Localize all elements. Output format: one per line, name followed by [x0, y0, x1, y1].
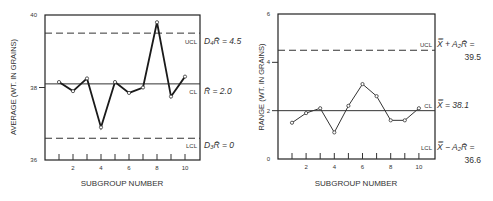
y-tick-label: 38: [30, 85, 37, 91]
x-axis-label: SUBGROUP NUMBER: [81, 179, 164, 188]
lcl-annotation: X̿ − A₂R̄ =: [436, 141, 474, 152]
data-point: [99, 126, 102, 129]
x-tick-label: 4: [99, 165, 103, 171]
range-chart: 0246 246810 UCL CL LCL X̿ + A₂R̄ = 39.5 …: [257, 11, 481, 188]
x-tick-label: 2: [304, 164, 308, 170]
control-charts: 363840 246810 UCL CL LCL D₄R̄ = 4.5 R̄ =…: [0, 0, 493, 201]
y-tick-label: 0: [267, 156, 271, 162]
lcl-tag: LCL: [186, 143, 198, 149]
data-point: [71, 90, 74, 93]
ucl-tag: UCL: [185, 39, 198, 45]
lcl-value: 36.6: [464, 155, 481, 165]
lcl-tag: LCL: [421, 145, 433, 151]
data-point: [403, 119, 406, 122]
x-tick-label: 4: [333, 164, 337, 170]
x-axis-label: SUBGROUP NUMBER: [315, 179, 398, 188]
cl-tag: CL: [424, 103, 432, 109]
cl-annotation: X̿ = 38.1: [436, 99, 469, 110]
x-tick-label: 6: [361, 164, 365, 170]
x-tick-label: 6: [127, 165, 131, 171]
y-axis-ticks: 363840: [30, 12, 45, 163]
cl-tag: CL: [189, 89, 197, 95]
ucl-annotation: X̿ + A₂R̄ =: [436, 38, 474, 49]
x-tick-label: 10: [182, 165, 189, 171]
ucl-annotation: D₄R̄ = 4.5: [204, 36, 241, 46]
data-point: [333, 131, 336, 134]
x-tick-label: 8: [155, 165, 159, 171]
y-axis-label: AVERAGE (WT. IN GRAINS): [9, 38, 18, 135]
y-tick-label: 40: [30, 12, 37, 18]
data-points: [290, 82, 420, 134]
data-point: [319, 107, 322, 110]
y-axis-ticks: 0246: [267, 11, 278, 162]
data-point: [57, 80, 60, 83]
x-tick-label: 2: [71, 165, 75, 171]
data-point: [290, 121, 293, 124]
data-point: [389, 119, 392, 122]
ucl-value: 39.5: [464, 52, 481, 62]
x-axis-ticks: 246810: [59, 154, 189, 171]
y-tick-label: 36: [30, 157, 37, 163]
data-point: [361, 82, 364, 85]
cl-annotation: R̄ = 2.0: [204, 86, 232, 96]
y-tick-label: 2: [267, 108, 271, 114]
data-point: [417, 107, 420, 110]
data-point: [347, 104, 350, 107]
data-point: [375, 95, 378, 98]
x-tick-label: 8: [389, 164, 393, 170]
data-point: [113, 80, 116, 83]
y-axis-label: RANGE (WT. IN GRAINS): [257, 43, 266, 131]
plot-frame: [278, 14, 435, 159]
data-series-line: [292, 84, 419, 132]
data-point: [183, 75, 186, 78]
y-tick-label: 6: [267, 11, 271, 17]
ucl-tag: UCL: [420, 42, 433, 48]
data-point: [305, 111, 308, 114]
data-series-line: [59, 22, 185, 127]
data-point: [127, 91, 130, 94]
data-point: [169, 95, 172, 98]
average-chart: 363840 246810 UCL CL LCL D₄R̄ = 4.5 R̄ =…: [9, 12, 241, 188]
x-axis-ticks: 246810: [292, 153, 423, 170]
x-tick-label: 10: [416, 164, 423, 170]
data-point: [85, 77, 88, 80]
data-point: [141, 86, 144, 89]
data-point: [155, 21, 158, 24]
lcl-annotation: D₃R̄ = 0: [204, 140, 234, 150]
y-tick-label: 4: [267, 59, 271, 65]
